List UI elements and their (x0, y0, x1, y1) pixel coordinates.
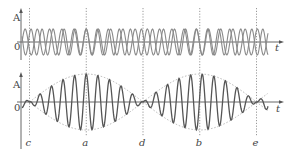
bottom-t-label: t (276, 103, 281, 114)
marker-label-b: b (196, 137, 202, 148)
bottom-y-label: A (12, 79, 21, 90)
beats-diagram: A 0 t A 0 t cadbe (0, 0, 295, 156)
bottom-y-axis-arrow-icon (19, 72, 23, 77)
marker-label-a: a (82, 137, 88, 148)
bottom-origin-label: 0 (14, 102, 20, 113)
marker-label-d: d (139, 137, 145, 148)
marker-lines (30, 8, 257, 136)
bottom-panel: A 0 t (12, 72, 284, 149)
top-t-axis-arrow-icon (279, 40, 284, 44)
top-panel: A 0 t (12, 8, 284, 60)
top-origin-label: 0 (14, 41, 20, 52)
marker-label-e: e (253, 137, 259, 148)
marker-labels: cadbe (26, 137, 259, 148)
top-y-label: A (12, 12, 21, 23)
marker-label-c: c (26, 137, 32, 148)
